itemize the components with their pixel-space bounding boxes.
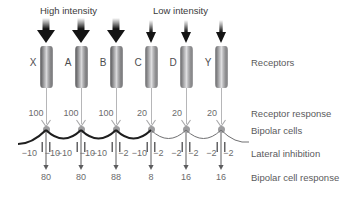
row-label-receptors: Receptors <box>251 57 294 68</box>
bipolar-response-B: 88 <box>106 172 126 182</box>
bipolar-response-D: 16 <box>177 172 195 182</box>
inhibition-value-0: −10 <box>21 148 38 158</box>
bipolar-response-Y: 16 <box>212 172 230 182</box>
inhibition-value-9: −2 <box>187 148 200 158</box>
inhibition-value-10: −2 <box>205 148 218 158</box>
row-label-bipolar-cell-response: Bipolar cell response <box>251 172 339 183</box>
row-label-lateral-inhibition: Lateral inhibition <box>251 148 320 159</box>
inhibition-value-7: −2 <box>152 148 165 158</box>
bipolar-response-X: 80 <box>36 172 56 182</box>
row-label-bipolar-cells: Bipolar cells <box>251 125 302 136</box>
inhibition-value-8: −2 <box>170 148 183 158</box>
inhibition-value-5: −2 <box>117 148 130 158</box>
inhibition-value-4: −10 <box>91 148 108 158</box>
inhibition-value-6: −10 <box>131 148 148 158</box>
bipolar-response-A: 80 <box>71 172 91 182</box>
inhibition-value-11: −2 <box>222 148 235 158</box>
bipolar-response-C: 8 <box>143 172 159 182</box>
lateral-inhibition-diagram: High intensity Low intensity <box>0 0 363 203</box>
row-label-receptor-response: Receptor response <box>251 108 331 119</box>
inhibition-value-2: −10 <box>56 148 73 158</box>
